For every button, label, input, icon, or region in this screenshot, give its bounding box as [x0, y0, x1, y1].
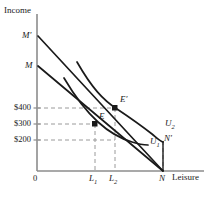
point-label-n-prime: N′ — [164, 134, 172, 143]
x-axis-title: Leisure — [172, 173, 199, 182]
point-marker-e — [92, 121, 98, 127]
point-marker-e-prime — [112, 105, 118, 111]
budget-line-m-prime-n — [38, 36, 163, 171]
origin-label: 0 — [33, 174, 37, 183]
y-tick-label-300: $300 — [3, 119, 31, 128]
x-tick-label-l1: L1 — [89, 174, 97, 185]
point-label-e: E — [99, 112, 105, 121]
y-tick-label-400: $400 — [3, 103, 31, 112]
economics-labor-leisure-chart: Income Leisure 0 $400 $300 $200 M′ M L1 … — [0, 0, 206, 197]
x-tick-label-l1-sub: 1 — [94, 178, 97, 185]
curve-label-u2: U2 — [165, 119, 175, 130]
curve-label-u2-sub: 2 — [172, 123, 175, 130]
y-axis-title: Income — [4, 6, 31, 15]
curve-label-u1: U1 — [150, 137, 160, 148]
y-tick-label-200: $200 — [3, 135, 31, 144]
y-endpoint-label-m-prime: M′ — [22, 31, 31, 40]
x-tick-label-n: N — [159, 174, 165, 183]
x-tick-label-l2: L2 — [109, 174, 117, 185]
point-label-e-prime: E′ — [120, 95, 127, 104]
x-tick-label-l2-sub: 2 — [114, 178, 117, 185]
y-endpoint-label-m: M — [25, 61, 33, 70]
indifference-curve-u1 — [64, 78, 148, 145]
curve-label-u1-sub: 1 — [157, 141, 160, 148]
